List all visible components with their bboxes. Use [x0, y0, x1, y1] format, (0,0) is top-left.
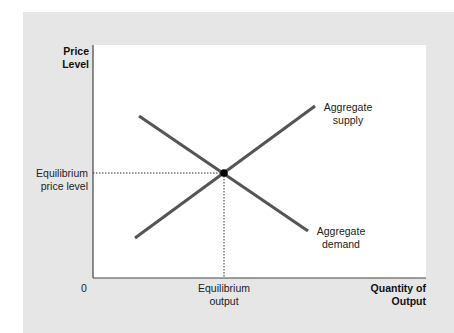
x-axis-label-line1: Quantity of [350, 282, 426, 295]
equilibrium-output-label-line1: Equilibrium [184, 282, 264, 295]
equilibrium-output-label: Equilibrium output [184, 282, 264, 308]
x-axis-label-line2: Output [350, 295, 426, 308]
equilibrium-output-label-line2: output [184, 295, 264, 308]
aggregate-demand-label-line1: Aggregate [309, 225, 373, 238]
origin-label: 0 [81, 282, 87, 295]
aggregate-supply-label-line1: Aggregate [316, 101, 380, 114]
aggregate-supply-label: Aggregate supply [316, 101, 380, 127]
aggregate-supply-label-line2: supply [316, 114, 380, 127]
equilibrium-price-label: Equilibrium price level [20, 167, 88, 193]
y-axis-label-line1: Price [40, 45, 89, 58]
y-axis-label: Price Level [40, 45, 89, 71]
aggregate-demand-label-line2: demand [309, 238, 373, 251]
origin-text: 0 [81, 282, 87, 294]
y-axis-label-line2: Level [40, 58, 89, 71]
equilibrium-price-label-line1: Equilibrium [20, 167, 88, 180]
equilibrium-price-label-line2: price level [20, 180, 88, 193]
aggregate-demand-label: Aggregate demand [309, 225, 373, 251]
x-axis-label: Quantity of Output [350, 282, 426, 308]
equilibrium-point [220, 169, 228, 177]
